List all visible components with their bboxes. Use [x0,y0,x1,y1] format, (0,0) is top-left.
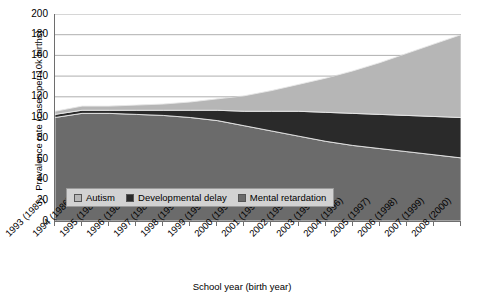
y-tick-label-100: 100 [18,112,48,122]
legend-swatch-mental-retardation-icon [238,194,246,202]
x-tick-mark [54,222,55,226]
y-tick-label-180: 180 [18,29,48,39]
x-tick-mark [379,222,380,226]
y-tick-label-200: 200 [18,9,48,19]
y-tick-label-140: 140 [18,71,48,81]
chart-legend: Autism Developmental delay Mental retard… [66,188,334,207]
x-tick-mark [135,222,136,226]
x-tick-mark [108,222,109,226]
legend-item-autism: Autism [74,192,115,203]
legend-label-developmental-delay: Developmental delay [138,192,227,203]
y-tick-label-160: 160 [18,50,48,60]
legend-swatch-autism-icon [74,194,82,202]
y-tick-label-120: 120 [18,91,48,101]
legend-item-developmental-delay: Developmental delay [126,192,227,203]
x-tick-mark [352,222,353,226]
x-tick-mark [216,222,217,226]
x-tick-mark [460,222,461,226]
x-axis-title: School year (birth year) [0,281,484,292]
x-tick-mark [298,222,299,226]
x-tick-mark [81,222,82,226]
legend-label-autism: Autism [86,192,115,203]
x-tick-mark [406,222,407,226]
x-tick-mark [162,222,163,226]
x-tick-mark [325,222,326,226]
legend-label-mental-retardation: Mental retardation [250,192,327,203]
x-tick-mark [433,222,434,226]
x-tick-mark [243,222,244,226]
chart-figure: Prevalence rate (cases per 10k births) 2… [0,0,484,299]
legend-item-mental-retardation: Mental retardation [238,192,327,203]
x-tick-mark [189,222,190,226]
legend-swatch-developmental-delay-icon [126,194,134,202]
y-tick-label-60: 60 [18,154,48,164]
y-tick-label-40: 40 [18,174,48,184]
y-tick-label-80: 80 [18,133,48,143]
